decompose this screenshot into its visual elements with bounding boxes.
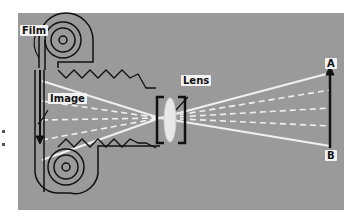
- label-image: Image: [48, 93, 87, 104]
- edge-mark: [2, 130, 5, 133]
- bottom-film-spool: [35, 70, 160, 194]
- lens-element: [164, 98, 176, 142]
- label-point-a: A: [325, 58, 337, 69]
- label-point-b: B: [325, 150, 337, 161]
- edge-mark: [2, 143, 5, 146]
- object-arrow: [326, 66, 334, 148]
- camera-diagram: [0, 0, 357, 221]
- top-film-spool: [39, 13, 93, 70]
- label-film: Film: [20, 25, 48, 36]
- label-lens: Lens: [181, 75, 211, 86]
- image-arrow: [36, 70, 44, 192]
